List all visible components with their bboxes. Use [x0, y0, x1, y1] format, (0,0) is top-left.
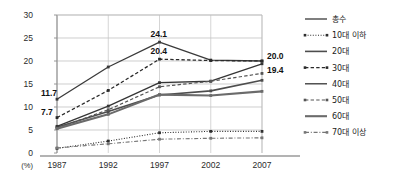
- data-point-30대: [107, 89, 110, 92]
- data-point-70대 이상: [56, 147, 59, 150]
- data-point-70대 이상: [158, 138, 161, 141]
- data-point-10대 이하: [209, 130, 212, 133]
- legend-item-40대[interactable]: [302, 77, 390, 91]
- data-point-10대 이하: [107, 140, 110, 143]
- y-axis-tick-label: 30: [24, 10, 34, 20]
- data-label: 20.0: [267, 51, 284, 61]
- data-point-30대: [261, 60, 264, 63]
- line-chart: 302520151050(%)1987199219972002200711.77…: [0, 0, 396, 185]
- data-point-10대 이하: [158, 131, 161, 134]
- data-point-20대: [209, 90, 212, 93]
- x-axis-tick-label: 2007: [253, 160, 272, 170]
- y-axis-tick-label: 5: [28, 125, 33, 135]
- data-point-총수: [107, 66, 110, 69]
- data-point-70대 이상: [261, 136, 264, 139]
- chart-container: 302520151050(%)1987199219972002200711.77…: [0, 0, 396, 185]
- data-point-60대: [209, 94, 212, 97]
- data-point-총수: [56, 98, 59, 101]
- x-axis-tick-label: 2002: [201, 160, 220, 170]
- data-point-40대: [107, 105, 110, 108]
- y-axis-tick-label: 25: [24, 33, 34, 43]
- data-point-30대: [56, 116, 59, 119]
- data-label: 20.4: [151, 46, 168, 56]
- legend-item-50대[interactable]: [302, 93, 390, 107]
- legend-item-총수[interactable]: [302, 12, 390, 26]
- data-point-50대: [209, 80, 212, 83]
- data-label: 24.1: [151, 29, 168, 39]
- legend-item-10대 이하[interactable]: [302, 28, 390, 42]
- x-axis-tick-label: 1997: [150, 160, 169, 170]
- data-point-60대: [56, 127, 59, 130]
- data-point-50대: [261, 72, 264, 75]
- y-axis-tick-label: 0: [28, 148, 33, 158]
- data-label: 11.7: [41, 88, 57, 98]
- data-point-60대: [158, 93, 161, 96]
- y-axis-tick-label: 20: [24, 56, 34, 66]
- data-point-60대: [261, 90, 264, 93]
- y-axis-tick-label: 15: [24, 79, 34, 89]
- x-axis-labels: 19871992199720022007: [48, 160, 272, 170]
- data-point-70대 이상: [107, 142, 110, 145]
- legend-item-20대[interactable]: [302, 44, 390, 58]
- data-point-40대: [158, 81, 161, 84]
- y-axis-unit-label: (%): [21, 161, 33, 170]
- data-point-40대: [261, 62, 264, 65]
- y-axis-tick-label: 10: [24, 102, 34, 112]
- data-point-총수: [158, 41, 161, 44]
- legend-item-60대[interactable]: [302, 109, 390, 123]
- legend: 총수10대 이하20대30대40대50대60대70대 이상: [302, 12, 390, 139]
- data-point-50대: [107, 108, 110, 111]
- legend-item-70대 이상[interactable]: [302, 125, 390, 139]
- data-point-70대 이상: [209, 137, 212, 140]
- data-label: 7.7: [41, 107, 53, 117]
- x-axis-tick-label: 1992: [99, 160, 118, 170]
- data-labels: 11.77.724.120.420.019.4: [41, 29, 284, 116]
- data-point-30대: [158, 58, 161, 61]
- data-point-10대 이하: [261, 130, 264, 133]
- data-point-30대: [209, 59, 212, 62]
- data-label: 19.4: [267, 65, 284, 75]
- data-point-50대: [158, 85, 161, 88]
- data-point-60대: [107, 113, 110, 116]
- data-point-20대: [261, 79, 264, 82]
- y-axis-labels: 302520151050: [24, 10, 57, 158]
- x-axis-tick-label: 1987: [48, 160, 67, 170]
- legend-item-30대[interactable]: [302, 61, 390, 75]
